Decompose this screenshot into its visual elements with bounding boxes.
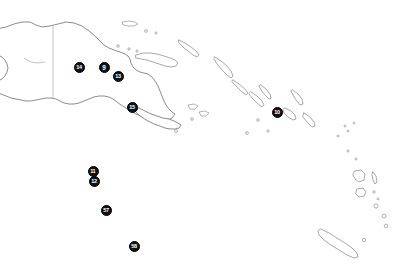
marker-label: 13 (115, 73, 120, 79)
map-marker-14[interactable]: 14 (74, 62, 85, 73)
map-marker-10[interactable]: 10 (272, 107, 283, 118)
map-container: 14 9 13 15 10 11 12 57 58 (0, 0, 405, 266)
map-marker-13[interactable]: 13 (113, 71, 124, 82)
map-marker-57[interactable]: 57 (101, 205, 112, 216)
marker-label: 57 (103, 207, 108, 213)
map-marker-58[interactable]: 58 (129, 241, 140, 252)
marker-label: 15 (129, 104, 134, 110)
marker-label: 10 (274, 109, 279, 115)
map-marker-11[interactable]: 11 (88, 166, 99, 177)
marker-label: 9 (102, 64, 105, 70)
marker-label: 58 (131, 243, 136, 249)
map-marker-12[interactable]: 12 (89, 176, 100, 187)
marker-label: 12 (91, 178, 96, 184)
marker-label: 14 (76, 64, 81, 70)
marker-layer: 14 9 13 15 10 11 12 57 58 (0, 0, 405, 266)
map-marker-15[interactable]: 15 (127, 102, 138, 113)
map-marker-9[interactable]: 9 (99, 62, 110, 73)
marker-label: 11 (90, 168, 95, 174)
